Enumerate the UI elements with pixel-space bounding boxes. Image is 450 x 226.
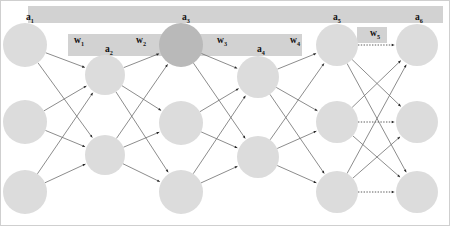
neuron-node-n5-3[interactable] <box>316 171 358 213</box>
connection-edge <box>37 93 92 174</box>
neuron-node-n2-1[interactable] <box>85 55 125 95</box>
connection-edge <box>44 86 86 111</box>
neuron-node-n6-1[interactable] <box>396 24 438 66</box>
arrow-head-icon <box>82 65 85 67</box>
connection-edge <box>45 164 86 183</box>
connection-edge <box>352 60 401 107</box>
connection-edge <box>122 86 161 111</box>
neuron-node-n5-1[interactable] <box>316 24 358 66</box>
connection-edge <box>353 137 400 178</box>
highlight-band-group <box>28 6 443 56</box>
arrow-head-icon <box>392 191 395 193</box>
arrow-head-icon <box>392 44 395 46</box>
neuron-node-n3-1[interactable] <box>159 23 203 67</box>
connection-edge <box>123 164 160 182</box>
neuron-node-n3-3[interactable] <box>159 170 203 214</box>
neuron-node-n6-2[interactable] <box>396 101 438 143</box>
neuron-node-n4-2[interactable] <box>237 136 279 178</box>
neuron-node-n5-2[interactable] <box>316 101 358 143</box>
band-top <box>28 6 443 23</box>
connection-edge <box>201 166 237 183</box>
neuron-node-n1-1[interactable] <box>3 23 47 67</box>
neuron-node-n1-2[interactable] <box>3 100 47 144</box>
connection-edge <box>200 89 239 112</box>
connection-edge <box>352 61 401 108</box>
connection-edge <box>277 166 316 183</box>
neuron-node-n3-2[interactable] <box>159 101 203 145</box>
connection-edge <box>353 136 400 177</box>
connection-edge <box>276 87 317 110</box>
neuron-node-n2-2[interactable] <box>85 135 125 175</box>
neural-network-diagram: a1a2a3a4a5a6w1w2w3w4w5 <box>0 0 450 226</box>
connection-edge <box>123 132 159 147</box>
neuron-node-n6-3[interactable] <box>396 171 438 213</box>
neuron-node-n1-3[interactable] <box>3 170 47 214</box>
arrow-head-icon <box>392 121 395 123</box>
network-canvas: a1a2a3a4a5a6w1w2w3w4w5 <box>0 0 450 226</box>
neuron-node-n4-1[interactable] <box>237 56 279 98</box>
